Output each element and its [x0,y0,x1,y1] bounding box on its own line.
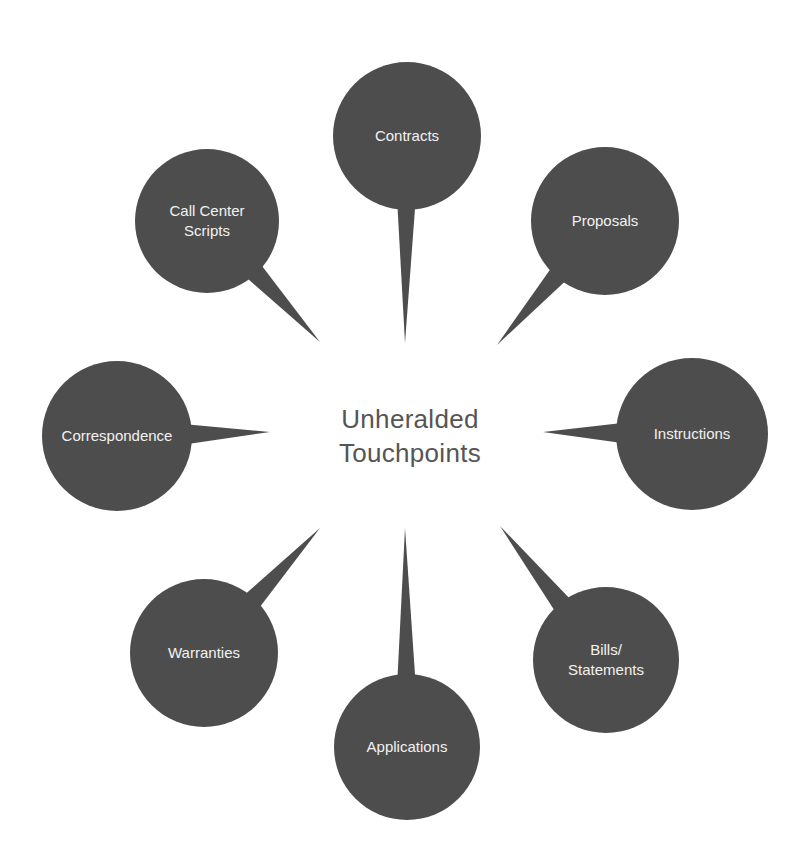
bubble-bills-statements [500,526,679,733]
pointer-tail [543,423,622,443]
bubble-applications [334,528,480,820]
bubble-circle [616,358,768,510]
bubble-circle [334,674,480,820]
pointer-tail [243,528,320,610]
bubble-circle [130,579,278,727]
bubble-circle [533,587,679,733]
bubble-proposals [497,147,679,345]
bubble-contracts [333,62,481,343]
bubble-call-center-scripts [135,149,320,342]
pointer-tail [497,266,568,345]
pointer-tail [397,204,415,343]
bubble-circle [531,147,679,295]
pointer-tail [186,424,270,444]
pointer-tail [500,526,572,614]
bubble-warranties [130,528,320,727]
bubble-circle [135,149,279,293]
bubble-instructions [543,358,768,510]
pointer-tail [245,262,320,342]
bubble-circle [42,361,192,511]
bubble-correspondence [42,361,270,511]
center-title: Unheralded Touchpoints [339,402,481,470]
bubble-circle [333,62,481,210]
pointer-tail [397,528,415,680]
